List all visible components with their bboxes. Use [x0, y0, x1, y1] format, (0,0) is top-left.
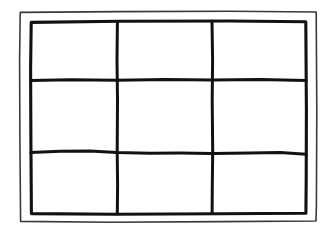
vertical-divider-1	[117, 22, 118, 214]
grid-cell-r1c1[interactable]	[32, 23, 116, 79]
vertical-divider-2	[212, 21, 213, 213]
grid-drawing-canvas	[0, 0, 335, 235]
grid-cell-r2c1[interactable]	[32, 82, 116, 151]
grid-cell-r3c1[interactable]	[32, 155, 116, 212]
horizontal-divider-1	[31, 80, 306, 81]
grid-cell-r3c2[interactable]	[119, 155, 211, 212]
hand-drawn-grid-diagram	[0, 0, 335, 235]
grid-cells	[32, 23, 305, 212]
grid-cell-r2c3[interactable]	[214, 82, 305, 151]
grid-cell-r2c2[interactable]	[119, 82, 211, 151]
grid-cell-r1c3[interactable]	[214, 23, 305, 79]
grid-cell-r3c3[interactable]	[214, 155, 305, 212]
grid-cell-r1c2[interactable]	[119, 23, 211, 79]
